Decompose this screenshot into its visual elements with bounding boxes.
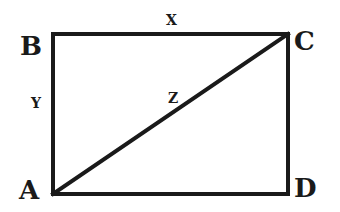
side-label-y: Y: [30, 95, 42, 111]
vertex-label-a: A: [18, 175, 40, 205]
vertex-label-b: B: [20, 31, 42, 61]
side-label-z: Z: [168, 90, 178, 106]
vertex-label-c: C: [294, 26, 315, 56]
rectangle-diagram: B C A D X Y Z: [0, 0, 340, 212]
side-label-x: X: [166, 12, 177, 28]
vertex-label-d: D: [294, 173, 317, 203]
